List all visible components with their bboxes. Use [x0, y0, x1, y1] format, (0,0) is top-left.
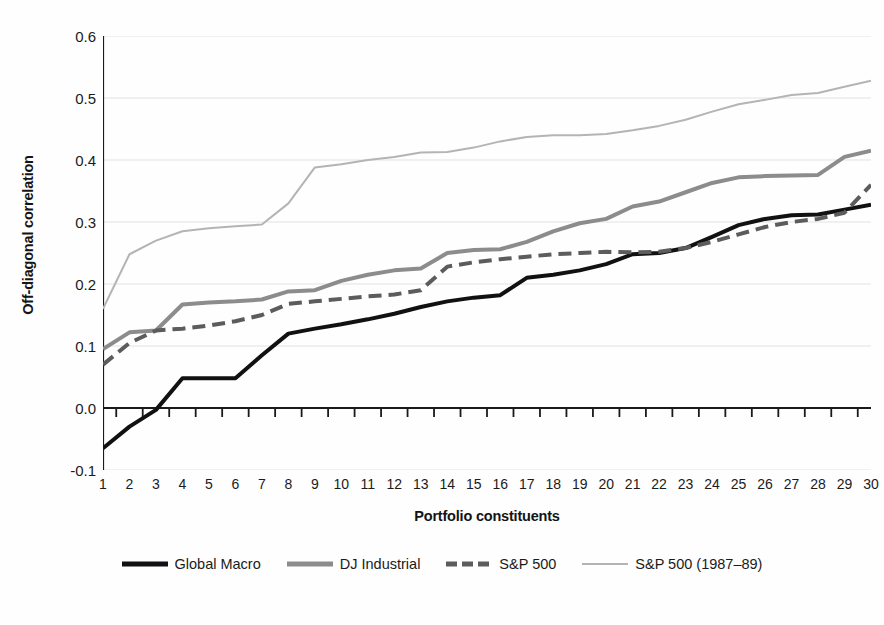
series-line-s-p-500 — [103, 185, 871, 365]
legend-label: S&P 500 (1987–89) — [635, 556, 762, 572]
series-lines — [103, 81, 871, 449]
x-tick-label: 8 — [284, 476, 292, 492]
x-tick-label: 26 — [757, 476, 773, 492]
x-tick-label: 12 — [387, 476, 403, 492]
series-line-s-p-500-1987-89 — [103, 81, 871, 309]
x-tick-label: 7 — [258, 476, 266, 492]
legend-line-icon — [287, 558, 333, 570]
x-tick-label: 21 — [625, 476, 641, 492]
y-tick-label: -0.1 — [52, 462, 96, 479]
x-tick-label: 27 — [784, 476, 800, 492]
x-tick-label: 30 — [863, 476, 879, 492]
legend-entry[interactable]: S&P 500 — [446, 556, 556, 572]
legend-entry[interactable]: Global Macro — [122, 556, 261, 572]
y-axis-title: Off-diagonal correlation — [8, 0, 48, 470]
x-tick-label: 17 — [519, 476, 535, 492]
y-tick-label: 0.4 — [52, 152, 96, 169]
y-axis-ticks: 0.60.50.40.30.20.10.0-0.1 — [44, 0, 96, 470]
y-tick-label: 0.1 — [52, 338, 96, 355]
x-tick-label: 25 — [731, 476, 747, 492]
x-tick-label: 19 — [572, 476, 588, 492]
plot-svg — [103, 36, 871, 470]
x-tick-label: 14 — [439, 476, 455, 492]
series-line-dj-industrial — [103, 151, 871, 349]
x-tick-label: 3 — [152, 476, 160, 492]
x-tick-label: 18 — [545, 476, 561, 492]
x-tick-label: 9 — [311, 476, 319, 492]
x-axis-ticks: 1234567891011121314151617181920212223242… — [103, 476, 871, 500]
y-tick-label: 0.5 — [52, 90, 96, 107]
legend-label: DJ Industrial — [340, 556, 421, 572]
y-tick-label: 0.3 — [52, 214, 96, 231]
x-tick-label: 15 — [466, 476, 482, 492]
x-tick-label: 10 — [334, 476, 350, 492]
legend-line-icon — [122, 558, 168, 570]
x-tick-label: 13 — [413, 476, 429, 492]
x-tick-label: 11 — [361, 476, 376, 492]
legend-line-icon — [446, 558, 492, 570]
legend-line-icon — [582, 558, 628, 570]
legend-label: S&P 500 — [499, 556, 556, 572]
x-tick-label: 22 — [651, 476, 667, 492]
chart-figure: Off-diagonal correlation 0.60.50.40.30.2… — [0, 0, 884, 625]
y-axis-title-text: Off-diagonal correlation — [20, 155, 36, 315]
x-tick-label: 29 — [837, 476, 853, 492]
legend-label: Global Macro — [175, 556, 261, 572]
x-tick-marks — [116, 408, 858, 417]
y-tick-label: 0.2 — [52, 276, 96, 293]
plot-area — [103, 36, 871, 470]
x-tick-label: 6 — [232, 476, 240, 492]
legend-entry[interactable]: S&P 500 (1987–89) — [582, 556, 762, 572]
x-tick-label: 23 — [678, 476, 694, 492]
y-tick-label: 0.0 — [52, 400, 96, 417]
y-tick-label: 0.6 — [52, 28, 96, 45]
x-tick-label: 16 — [492, 476, 508, 492]
x-tick-label: 4 — [179, 476, 187, 492]
chart-legend: Global MacroDJ IndustrialS&P 500S&P 500 … — [0, 556, 884, 572]
legend-entry[interactable]: DJ Industrial — [287, 556, 421, 572]
x-tick-label: 20 — [598, 476, 614, 492]
x-tick-label: 28 — [810, 476, 826, 492]
x-tick-label: 24 — [704, 476, 720, 492]
x-tick-label: 2 — [126, 476, 134, 492]
x-axis-title: Portfolio constituents — [103, 508, 871, 524]
x-tick-label: 5 — [205, 476, 213, 492]
x-tick-label: 1 — [99, 476, 107, 492]
